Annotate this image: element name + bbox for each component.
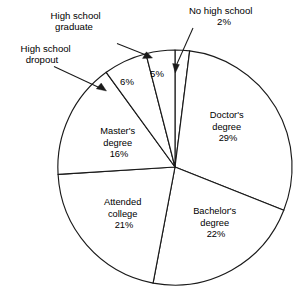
slice-label-doctors-line3: 29% xyxy=(219,133,238,143)
slice-value-high-school-graduate: 5% xyxy=(150,68,164,79)
slice-label-doctors-line2: degree xyxy=(212,122,241,132)
callout-no-high-school: No high school 2% xyxy=(189,5,255,27)
slice-label-masters-line3: 16% xyxy=(110,149,129,159)
slice-label-masters-line1: Master's xyxy=(100,126,135,136)
slice-label-attended-line2: college xyxy=(108,209,137,219)
slice-label-masters-line2: degree xyxy=(103,138,132,148)
pie-chart-figure: No high school 2% High school graduate H… xyxy=(0,0,305,299)
pie-chart-canvas: No high school 2% High school graduate H… xyxy=(0,0,305,299)
leader-line-high-school-graduate xyxy=(117,44,146,56)
slice-label-bachelors-line1: Bachelor's xyxy=(193,206,236,216)
slice-label-bachelors-line3: 22% xyxy=(207,229,226,239)
callout-high-school-graduate: High school graduate xyxy=(51,10,104,32)
callout-high-school-dropout: High school dropout xyxy=(21,43,74,65)
slice-value-high-school-dropout: 6% xyxy=(120,76,134,87)
leader-line-high-school-dropout xyxy=(54,67,99,88)
callout-high-school-dropout-line1: High school xyxy=(21,43,71,54)
callout-no-high-school-line2: 2% xyxy=(217,16,231,27)
callout-high-school-graduate-line2: graduate xyxy=(55,21,93,32)
slice-label-attended-line3: 21% xyxy=(115,220,134,230)
callout-high-school-graduate-line1: High school xyxy=(51,10,101,21)
callout-high-school-dropout-line2: dropout xyxy=(26,54,59,65)
slice-label-bachelors-line2: degree xyxy=(200,218,229,228)
slice-label-doctors-line1: Doctor's xyxy=(210,110,244,120)
slice-label-attended-line1: Attended xyxy=(104,197,141,207)
callout-no-high-school-line1: No high school xyxy=(189,5,252,16)
